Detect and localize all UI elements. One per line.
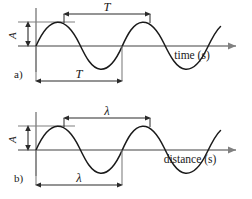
- x-axis-label-a: time (s): [174, 49, 210, 62]
- panel-label-b: b): [14, 172, 24, 185]
- amplitude-label-a: A: [6, 32, 18, 40]
- wavelength-label-top-b: λ: [103, 104, 110, 118]
- panel-label-a: a): [14, 68, 23, 81]
- x-axis-arrowhead-b: [228, 147, 236, 154]
- period-label-bottom-a: T: [76, 67, 84, 81]
- amplitude-label-b: A: [6, 136, 18, 144]
- figure-canvas: A T T time (s) a): [0, 0, 252, 199]
- wavelength-label-bottom-b: λ: [75, 171, 82, 185]
- period-label-top-a: T: [104, 0, 112, 14]
- wave-diagram-figure: A T T time (s) a): [0, 0, 252, 199]
- x-axis-arrowhead-a: [228, 43, 236, 50]
- x-axis-label-b: distance (s): [164, 153, 217, 166]
- panel-b: A λ λ distance (s) b): [6, 104, 236, 188]
- panel-a: A T T time (s) a): [6, 0, 236, 84]
